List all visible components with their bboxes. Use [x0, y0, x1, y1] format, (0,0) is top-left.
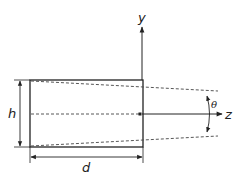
optics-diagram: y z h d θ	[0, 0, 243, 178]
h-label: h	[8, 106, 16, 121]
y-axis-label: y	[137, 10, 146, 25]
z-axis-label: z	[224, 107, 233, 122]
rectangle-body	[30, 80, 143, 147]
focal-point	[139, 113, 142, 116]
d-label: d	[82, 160, 91, 175]
theta-label: θ	[211, 99, 217, 110]
